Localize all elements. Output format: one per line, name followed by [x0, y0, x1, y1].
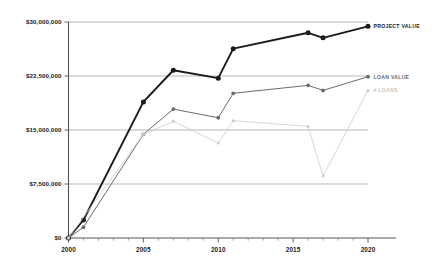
y-axis-label: $0 — [54, 234, 62, 241]
x-axis-label: 2020 — [361, 246, 376, 253]
data-point — [82, 225, 86, 229]
x-axis-tick-labels: 20002005201020152020 — [61, 246, 375, 253]
series-label-project-value: PROJECT VALUE — [374, 23, 421, 29]
data-point — [141, 99, 146, 104]
data-point — [171, 68, 176, 73]
data-point — [367, 89, 370, 92]
data-point — [67, 237, 70, 240]
data-point — [231, 91, 235, 95]
data-point — [307, 125, 310, 128]
x-axis-label: 2005 — [136, 246, 151, 253]
data-point — [231, 46, 236, 51]
data-point — [321, 35, 326, 40]
series-line — [69, 26, 369, 238]
series-lines — [66, 24, 371, 241]
data-point — [366, 24, 371, 29]
series-label-loan-value: LOAN VALUE — [374, 74, 410, 80]
data-point — [216, 76, 221, 81]
line-chart: $0$7,500,000$15,000,000$22,500,000$30,00… — [0, 0, 434, 271]
x-axis — [69, 238, 397, 243]
data-point — [366, 75, 370, 79]
data-point — [232, 119, 235, 122]
series-label-loans: # LOANS — [374, 87, 399, 93]
x-axis-label: 2010 — [211, 246, 226, 253]
x-axis-label: 2000 — [61, 246, 76, 253]
data-point — [216, 116, 220, 120]
y-axis-label: $22,500,000 — [26, 72, 62, 79]
data-point — [306, 30, 311, 35]
data-point — [321, 89, 325, 93]
series-line — [69, 90, 369, 238]
data-point — [217, 141, 220, 144]
data-point — [172, 120, 175, 123]
x-axis-label: 2015 — [286, 246, 301, 253]
y-axis-label: $30,000,000 — [26, 18, 62, 25]
data-point — [142, 133, 145, 136]
chart-container: $0$7,500,000$15,000,000$22,500,000$30,00… — [0, 0, 434, 271]
series-inline-labels: PROJECT VALUELOAN VALUE# LOANS — [374, 23, 421, 93]
data-point — [322, 175, 325, 178]
y-axis-label: $15,000,000 — [26, 126, 62, 133]
series-loan-value — [67, 75, 370, 240]
series-line — [69, 77, 369, 238]
data-point — [306, 83, 310, 87]
y-axis-label: $7,500,000 — [30, 180, 62, 187]
y-axis-tick-labels: $0$7,500,000$15,000,000$22,500,000$30,00… — [26, 18, 62, 241]
y-axis — [65, 22, 69, 238]
data-point — [171, 107, 175, 111]
series-project-value — [66, 24, 371, 241]
